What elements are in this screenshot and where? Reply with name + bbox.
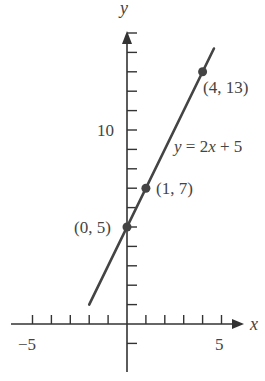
function-line — [89, 49, 214, 305]
x-tick-label-neg5: −5 — [18, 335, 36, 354]
data-point — [141, 184, 150, 193]
point-label-4-13: (4, 13) — [203, 78, 248, 97]
x-axis-arrow-icon — [232, 319, 244, 329]
data-point — [123, 223, 132, 232]
chart-canvas: y x −5 5 10 y = 2x + 5 (0, 5) (1, 7) (4,… — [0, 0, 265, 381]
point-label-0-5: (0, 5) — [74, 218, 111, 237]
equation-label: y = 2x + 5 — [172, 137, 242, 156]
x-tick-label-5: 5 — [215, 335, 224, 354]
data-point — [198, 67, 207, 76]
point-label-1-7: (1, 7) — [156, 179, 193, 198]
x-axis-label: x — [249, 314, 258, 334]
y-tick-label-10: 10 — [97, 121, 114, 140]
y-axis-label: y — [118, 0, 128, 18]
